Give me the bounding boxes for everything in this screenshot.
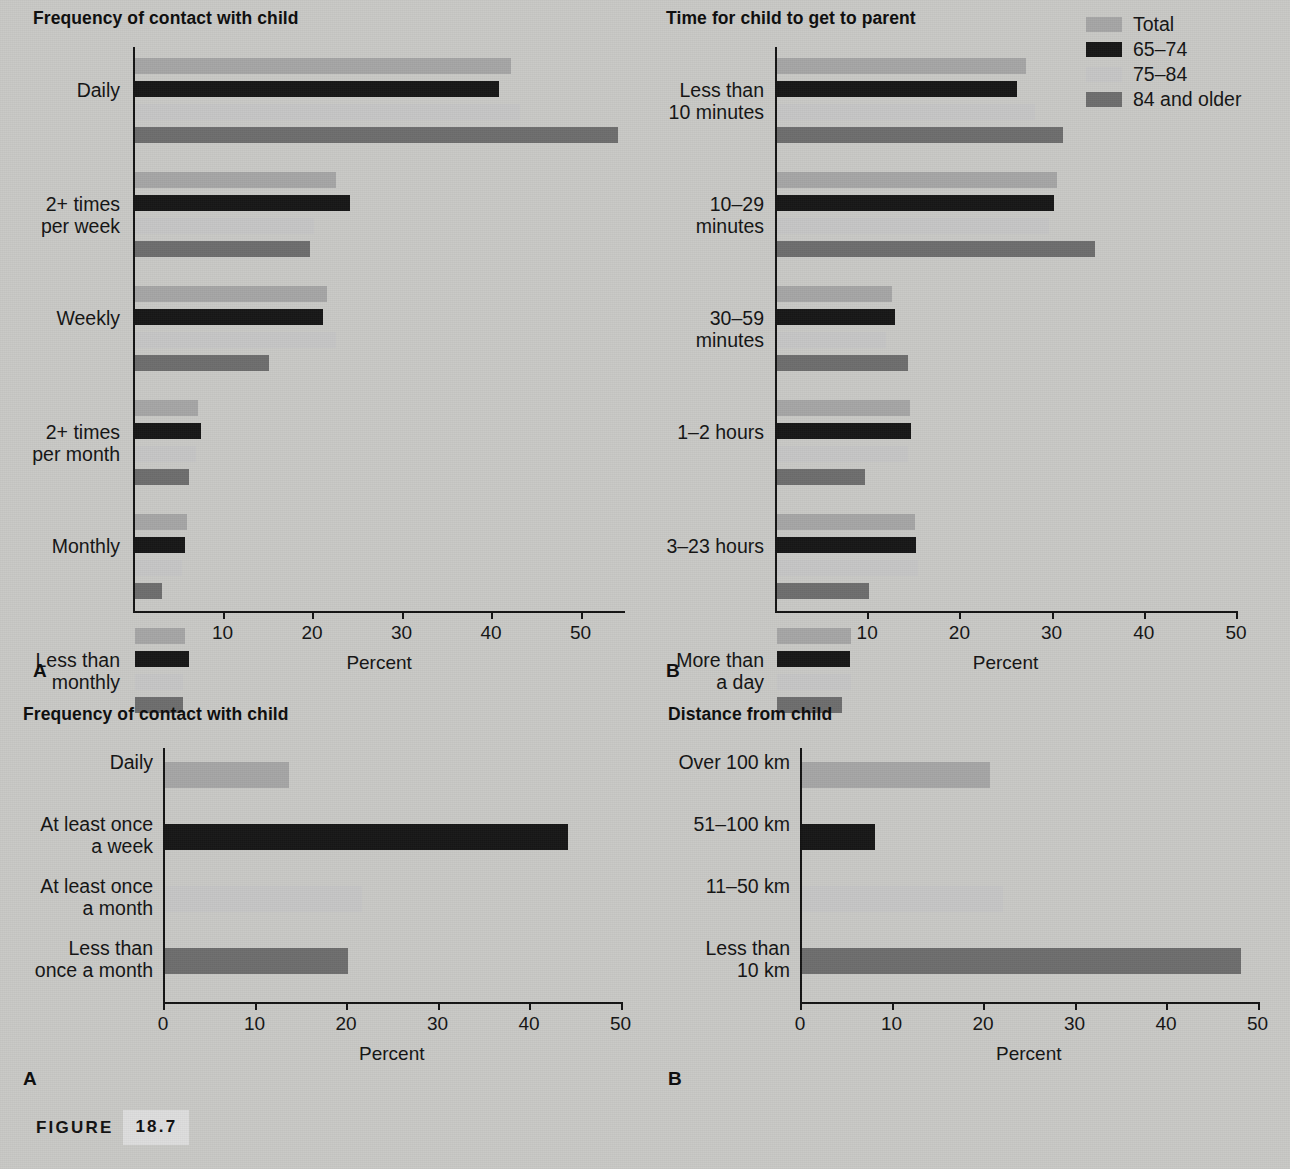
bar (777, 58, 1026, 74)
x-axis-tick-label: 50 (1247, 1013, 1268, 1035)
bar (135, 355, 269, 371)
bar (135, 514, 187, 530)
bar (135, 195, 350, 211)
x-axis-tick-label: 20 (301, 622, 322, 644)
bar (135, 58, 511, 74)
legend-label-1: 65–74 (1133, 38, 1187, 61)
bar (165, 824, 568, 850)
x-axis-tick (800, 1002, 802, 1010)
x-axis-tick-label: 10 (881, 1013, 902, 1035)
bar (135, 81, 499, 97)
bar (777, 241, 1095, 257)
category-label: 3–23 hours (642, 536, 764, 558)
x-axis-tick (621, 1002, 623, 1010)
bar (135, 628, 185, 644)
bar (135, 400, 198, 416)
category-label: 2+ times per week (10, 194, 120, 238)
panel-letter-bottom-right: B (668, 1068, 682, 1090)
bar (135, 332, 336, 348)
x-axis-line (775, 611, 1236, 613)
bar (777, 583, 869, 599)
bar (802, 886, 1003, 912)
bar (777, 651, 850, 667)
x-axis-caption: Percent (359, 1043, 424, 1065)
category-label: At least once a week (0, 814, 153, 858)
x-axis-tick (438, 1002, 440, 1010)
bar (777, 514, 915, 530)
bar (777, 127, 1063, 143)
x-axis-tick-label: 0 (158, 1013, 169, 1035)
panel-top-left: Frequency of contact with child 10203040… (0, 0, 645, 690)
panel-bottom-right: Distance from child 01020304050PercentOv… (645, 690, 1290, 1090)
x-axis-tick (402, 611, 404, 619)
legend-swatch-0 (1086, 17, 1122, 32)
figure-caption-word: FIGURE (36, 1118, 113, 1138)
legend-label-0: Total (1133, 13, 1174, 36)
x-axis-tick-label: 10 (857, 622, 878, 644)
x-axis-tick-label: 30 (427, 1013, 448, 1035)
bar (135, 560, 182, 576)
x-axis-tick-label: 40 (1155, 1013, 1176, 1035)
x-axis-tick-label: 10 (244, 1013, 265, 1035)
x-axis-tick (223, 611, 225, 619)
bar (777, 628, 851, 644)
plot-area-bottom-left: 01020304050PercentDailyAt least once a w… (0, 690, 645, 1090)
category-label: 51–100 km (630, 814, 790, 836)
x-axis-tick (1075, 1002, 1077, 1010)
category-label: Less than once a month (0, 938, 153, 982)
bar (777, 195, 1054, 211)
category-label: 11–50 km (630, 876, 790, 898)
x-axis-tick (892, 1002, 894, 1010)
panel-top-right: Time for child to get to parent 10203040… (645, 0, 1290, 690)
x-axis-tick-label: 50 (610, 1013, 631, 1035)
bar (135, 423, 201, 439)
category-label: 2+ times per month (10, 422, 120, 466)
category-label: More than a day (642, 650, 764, 694)
bar (802, 762, 990, 788)
bar (135, 651, 189, 667)
x-axis-tick (491, 611, 493, 619)
legend-label-2: 75–84 (1133, 63, 1187, 86)
x-axis-tick (1258, 1002, 1260, 1010)
legend: Total65–7475–8484 and older (1086, 12, 1241, 112)
bar (777, 172, 1057, 188)
plot-area-bottom-right: 01020304050PercentOver 100 km51–100 km11… (645, 690, 1290, 1090)
x-axis-tick-label: 50 (570, 622, 591, 644)
x-axis-tick (1052, 611, 1054, 619)
bar (135, 309, 323, 325)
x-axis-caption: Percent (996, 1043, 1061, 1065)
bar (777, 469, 865, 485)
category-label: Over 100 km (630, 752, 790, 774)
panel-letter-bottom-left: A (23, 1068, 37, 1090)
x-axis-caption: Percent (973, 652, 1038, 674)
x-axis-tick-label: 40 (1133, 622, 1154, 644)
bar (777, 400, 910, 416)
bar (135, 172, 336, 188)
category-label: Monthly (10, 536, 120, 558)
x-axis-tick (255, 1002, 257, 1010)
bar (777, 104, 1035, 120)
bar (777, 81, 1017, 97)
x-axis-tick-label: 20 (972, 1013, 993, 1035)
bar (165, 762, 289, 788)
legend-swatch-1 (1086, 42, 1122, 57)
category-label: Daily (0, 752, 153, 774)
x-axis-tick (983, 1002, 985, 1010)
x-axis-tick (581, 611, 583, 619)
legend-item-1: 65–74 (1086, 37, 1241, 62)
category-label: 30–59 minutes (642, 308, 764, 352)
bar (135, 674, 183, 690)
category-label: 10–29 minutes (642, 194, 764, 238)
x-axis-tick-label: 30 (1041, 622, 1062, 644)
bar (777, 309, 895, 325)
x-axis-tick-label: 20 (949, 622, 970, 644)
legend-item-0: Total (1086, 12, 1241, 37)
x-axis-tick (1144, 611, 1146, 619)
legend-label-3: 84 and older (1133, 88, 1241, 111)
bar (135, 537, 185, 553)
x-axis-tick-label: 30 (391, 622, 412, 644)
category-label: Less than monthly (10, 650, 120, 694)
bar (802, 948, 1241, 974)
legend-item-2: 75–84 (1086, 62, 1241, 87)
category-label: 1–2 hours (642, 422, 764, 444)
